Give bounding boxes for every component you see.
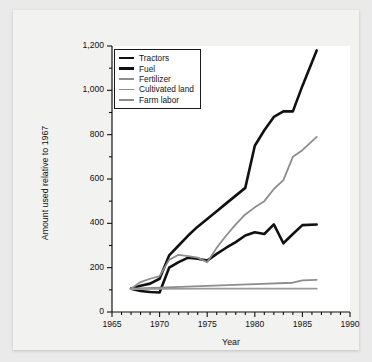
- x-tick-label-1985: 1985: [285, 320, 319, 329]
- legend-swatch-cultivated-land: [119, 89, 134, 91]
- legend-item-fuel: Fuel: [119, 63, 194, 73]
- legend-label-fertilizer: Fertilizer: [139, 74, 171, 84]
- y-tick-label-600: 600: [64, 174, 104, 183]
- x-axis-title: Year: [112, 337, 350, 347]
- legend-swatch-fuel: [119, 67, 134, 70]
- legend-item-cultivated-land: Cultivated land: [119, 84, 194, 94]
- x-tick-label-1965: 1965: [95, 320, 129, 329]
- x-tick-label-1970: 1970: [143, 320, 177, 329]
- legend-swatch-tractors: [119, 57, 134, 60]
- figure-card: Tractors Fuel Fertilizer Cultivated land…: [13, 10, 359, 350]
- y-tick-label-800: 800: [64, 130, 104, 139]
- legend-label-cultivated-land: Cultivated land: [139, 84, 194, 94]
- y-tick-label-200: 200: [64, 263, 104, 272]
- x-tick-label-1990: 1990: [333, 320, 367, 329]
- legend-swatch-fertilizer: [119, 78, 134, 80]
- chart-page: Tractors Fuel Fertilizer Cultivated land…: [0, 0, 372, 362]
- legend-item-fertilizer: Fertilizer: [119, 74, 194, 84]
- legend-label-fuel: Fuel: [139, 64, 155, 74]
- y-tick-label-1200: 1,200: [64, 41, 104, 50]
- y-tick-label-400: 400: [64, 218, 104, 227]
- chart-legend: Tractors Fuel Fertilizer Cultivated land…: [114, 49, 201, 109]
- legend-swatch-farm-labor: [119, 99, 134, 101]
- legend-item-tractors: Tractors: [119, 53, 194, 63]
- legend-label-tractors: Tractors: [139, 53, 169, 63]
- legend-item-farm-labor: Farm labor: [119, 95, 194, 105]
- y-axis-title: Amount used relative to 1967: [40, 78, 50, 288]
- x-tick-label-1980: 1980: [238, 320, 272, 329]
- legend-label-farm-labor: Farm labor: [139, 95, 179, 105]
- y-tick-label-1000: 1,000: [64, 85, 104, 94]
- y-tick-label-0: 0: [64, 307, 104, 316]
- x-tick-label-1975: 1975: [190, 320, 224, 329]
